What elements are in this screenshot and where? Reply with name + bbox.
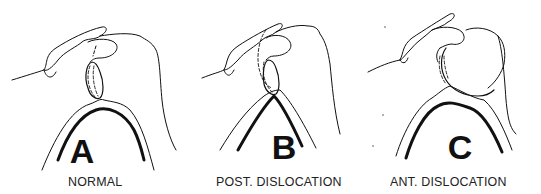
panel-letter-b: B (264, 130, 304, 164)
caption-anterior-dislocation: ANT. DISLOCATION (390, 174, 507, 189)
panel-letter-c: C (440, 130, 480, 164)
scan-speck (372, 145, 374, 147)
panel-c-anterior-dislocation: C ANT. DISLOCATION (360, 0, 541, 194)
panel-a-normal: A NORMAL (0, 0, 180, 194)
shoulder-illustration-posterior-dislocation (180, 0, 360, 194)
caption-normal: NORMAL (68, 174, 122, 189)
scan-speck (384, 26, 386, 28)
panel-letter-a: A (62, 134, 102, 168)
panel-b-posterior-dislocation: B POST. DISLOCATION (180, 0, 360, 194)
scan-speck (382, 114, 384, 116)
caption-posterior-dislocation: POST. DISLOCATION (216, 174, 342, 189)
